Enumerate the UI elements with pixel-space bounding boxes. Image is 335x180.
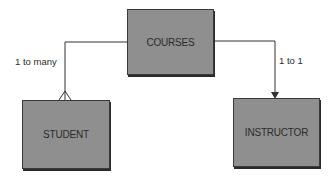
entity-label: COURSES xyxy=(146,37,194,48)
entity-student: STUDENT xyxy=(22,100,110,169)
connector-courses-student xyxy=(65,42,127,100)
entity-label: INSTRUCTOR xyxy=(245,127,308,138)
entity-label: STUDENT xyxy=(43,129,89,140)
entity-instructor: INSTRUCTOR xyxy=(233,98,320,167)
relationship-label-one-to-many: 1 to many xyxy=(15,56,57,67)
relationship-label-one-to-one: 1 to 1 xyxy=(279,55,303,66)
connector-courses-instructor xyxy=(213,41,275,92)
entity-courses: COURSES xyxy=(127,9,214,75)
